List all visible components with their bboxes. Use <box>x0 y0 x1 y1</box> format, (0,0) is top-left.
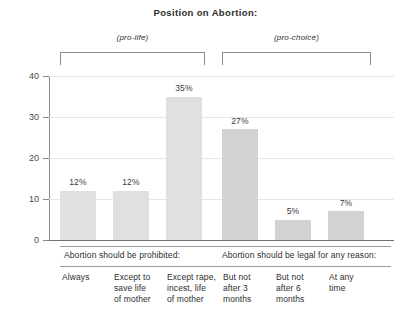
group-bracket-pro-choice <box>222 52 371 65</box>
category-line-1: At any <box>329 272 385 283</box>
gridline-40 <box>49 76 394 77</box>
category-label-not-after-3-months: But not after 3 months <box>223 272 279 306</box>
category-line-2: time <box>329 283 385 294</box>
category-line-1: Always <box>62 272 118 283</box>
footer-rule-bottom <box>60 266 391 267</box>
category-label-except-save-life: Except to save life of mother <box>114 272 170 306</box>
bar-except-rape-incest[interactable] <box>166 97 202 241</box>
category-line-2: after 3 <box>223 283 279 294</box>
footer-rule-top <box>60 246 391 247</box>
category-line-3: of mother <box>167 294 223 305</box>
category-label-at-any-time: At any time <box>329 272 385 294</box>
bar-value-always: 12% <box>58 177 98 187</box>
bar-value-not-after-6-months: 5% <box>273 206 313 216</box>
bar-at-any-time[interactable] <box>328 211 364 240</box>
group-header-prohibited: Abortion should be prohibited: <box>64 250 180 260</box>
category-line-3: months <box>276 294 332 305</box>
category-line-1: Except to <box>114 272 170 283</box>
group-bracket-pro-life <box>60 52 205 65</box>
x-axis-line <box>49 240 394 241</box>
category-line-1: Except rape, <box>167 272 223 283</box>
bar-not-after-3-months[interactable] <box>222 129 258 240</box>
category-line-2: after 6 <box>276 283 332 294</box>
category-label-always: Always <box>62 272 118 283</box>
category-line-2: incest, life <box>167 283 223 294</box>
bar-not-after-6-months[interactable] <box>275 220 311 241</box>
category-line-1: But not <box>223 272 279 283</box>
category-label-not-after-6-months: But not after 6 months <box>276 272 332 306</box>
y-tick-label-10: 10 <box>14 194 39 204</box>
bar-always[interactable] <box>60 191 96 240</box>
category-line-2: save life <box>114 283 170 294</box>
bar-value-except-save-life: 12% <box>111 177 151 187</box>
group-header-legal: Abortion should be legal for any reason: <box>222 250 376 260</box>
bar-except-save-life[interactable] <box>113 191 149 240</box>
plot-area <box>49 76 394 240</box>
y-tick-label-30: 30 <box>14 112 39 122</box>
bar-value-at-any-time: 7% <box>326 198 366 208</box>
bar-value-not-after-3-months: 27% <box>220 116 260 126</box>
group-label-pro-choice: (pro-choice) <box>222 33 371 42</box>
y-tick-label-20: 20 <box>14 153 39 163</box>
y-tick-label-40: 40 <box>14 71 39 81</box>
category-line-3: of mother <box>114 294 170 305</box>
category-label-except-rape-incest: Except rape, incest, life of mother <box>167 272 223 306</box>
abortion-position-bar-chart: Position on Abortion: (pro-life) (pro-ch… <box>0 0 411 315</box>
chart-title: Position on Abortion: <box>0 7 411 18</box>
bar-value-except-rape-incest: 35% <box>164 83 204 93</box>
category-line-3: months <box>223 294 279 305</box>
category-line-1: But not <box>276 272 332 283</box>
group-label-pro-life: (pro-life) <box>60 33 205 42</box>
y-tick-label-0: 0 <box>14 235 39 245</box>
